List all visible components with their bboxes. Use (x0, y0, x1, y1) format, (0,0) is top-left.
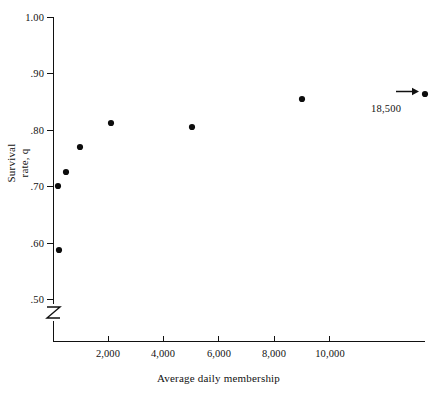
plot-canvas (0, 0, 437, 396)
x-tick-label: 8,000 (262, 348, 286, 359)
y-axis-title-line-2: rate, q (18, 115, 31, 211)
data-point (108, 120, 114, 126)
y-tick-label: .60 (4, 238, 44, 249)
data-point (189, 124, 195, 130)
offscale-point-label: 18,500 (371, 103, 401, 114)
x-axis-title: Average daily membership (0, 372, 437, 384)
y-tick-label: .90 (4, 68, 44, 79)
y-tick-label: 1.00 (4, 12, 44, 23)
x-tick-label: 10,000 (315, 348, 344, 359)
data-points (55, 91, 428, 253)
scatter-chart-figure: 1.00 .90 .80 .70 .60 .50 2,000 4,000 6,0… (0, 0, 437, 396)
data-point (299, 96, 305, 102)
data-point (77, 144, 83, 150)
x-tick-label: 6,000 (207, 348, 231, 359)
y-axis-ticks (47, 18, 53, 300)
y-axis-title-line-1: Survival (5, 115, 18, 211)
data-point-offscale (422, 91, 428, 97)
right-arrow-icon (396, 88, 419, 95)
x-tick-label: 2,000 (96, 348, 120, 359)
x-tick-label: 4,000 (151, 348, 175, 359)
data-point (63, 169, 69, 175)
data-point (55, 183, 61, 189)
y-tick-label: .50 (4, 294, 44, 305)
data-point (56, 247, 62, 253)
y-axis-break-zigzag (47, 307, 60, 318)
y-axis-title: Survival rate, q (5, 115, 35, 211)
